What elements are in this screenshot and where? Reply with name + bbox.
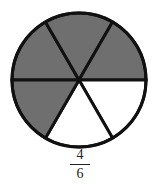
fraction-bar (70, 164, 90, 165)
denominator: 6 (66, 167, 94, 181)
numerator: 4 (66, 148, 94, 162)
fraction-label: 4 6 (66, 148, 94, 181)
